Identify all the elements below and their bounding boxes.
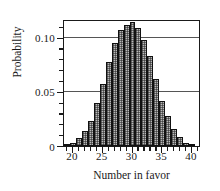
y-tick-minor: [59, 27, 63, 28]
x-tick-label: 20: [66, 151, 77, 162]
x-axis-tick-labels: 2025303540: [63, 151, 200, 165]
y-tick-minor: [59, 59, 63, 60]
y-axis-tick-labels: 00.050.10: [0, 20, 55, 147]
y-tick-label: 0.10: [35, 33, 55, 44]
bar: [189, 144, 195, 146]
y-tick-major: [57, 92, 63, 93]
x-tick-label: 40: [185, 151, 196, 162]
histogram-figure: 00.050.10 2025303540 Probability Number …: [0, 0, 220, 191]
y-tick-minor: [59, 113, 63, 114]
y-tick-minor: [59, 48, 63, 49]
y-tick-label: 0.05: [35, 87, 55, 98]
x-tick-label: 25: [96, 151, 107, 162]
y-axis-title: Probability: [11, 0, 23, 107]
x-tick-label: 35: [156, 151, 167, 162]
y-tick-minor: [59, 103, 63, 104]
bar-series: [64, 21, 199, 146]
x-axis-title: Number in favor: [63, 169, 200, 181]
y-tick-minor: [59, 81, 63, 82]
y-tick-minor: [59, 124, 63, 125]
y-tick-major: [57, 38, 63, 39]
y-tick-minor: [59, 70, 63, 71]
x-tick-label: 30: [126, 151, 137, 162]
y-tick-label: 0: [49, 142, 55, 153]
plot-area: [63, 20, 200, 147]
y-tick-minor: [59, 135, 63, 136]
